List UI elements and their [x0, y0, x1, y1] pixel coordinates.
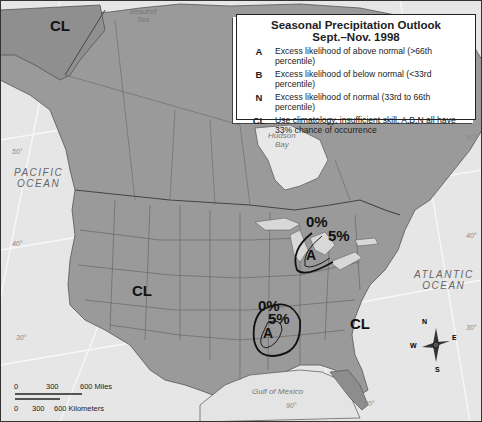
legend-desc: Use climatology, insufficient skill, A,B… — [275, 116, 469, 135]
legend-key: N — [243, 93, 275, 112]
great-lakes-outer-pct: 0% — [306, 213, 328, 230]
pacific-ocean-label: PACIFIC OCEAN — [14, 168, 63, 189]
compass-icon — [416, 320, 456, 370]
atlantic-line2: OCEAN — [414, 281, 474, 292]
legend-entry: B Excess likelihood of below normal (<33… — [243, 70, 469, 89]
zone-east-cl: CL — [350, 315, 370, 332]
compass-rose: N S W E — [416, 320, 456, 370]
scale-km-300: 300 — [32, 404, 45, 413]
lat-40-left: 40° — [12, 240, 23, 247]
pacific-line2: OCEAN — [14, 179, 63, 190]
great-lakes-a-label: A — [306, 247, 316, 263]
lat-30-left: 30° — [16, 334, 27, 341]
pacific-line1: PACIFIC — [14, 168, 63, 179]
compass-e: E — [452, 334, 457, 341]
scale-miles-300: 300 — [46, 382, 59, 391]
legend-desc: Excess likelihood of above normal (>66th… — [275, 47, 469, 66]
legend-entry: A Excess likelihood of above normal (>66… — [243, 47, 469, 66]
atlantic-ocean-label: ATLANTIC OCEAN — [414, 270, 474, 291]
lon-90: 90° — [286, 402, 297, 409]
atlantic-line1: ATLANTIC — [414, 270, 474, 281]
gulf-of-mexico-label: Gulf of Mexico — [252, 388, 303, 397]
legend-key: CL — [243, 116, 275, 135]
legend-desc: Excess likelihood of below normal (<33rd… — [275, 70, 469, 89]
lat-30-right: 30° — [466, 324, 477, 331]
legend-entry: N Excess likelihood of normal (33rd to 6… — [243, 93, 469, 112]
legend-box: Seasonal Precipitation Outlook Sept.–Nov… — [236, 14, 476, 120]
scale-bar: 0 300 600 Miles 0 300 600 Kilometers — [12, 382, 122, 416]
lat-50-right: 50° — [466, 134, 477, 141]
hudson-line2: Bay — [268, 141, 296, 150]
lat-40-right: 40° — [466, 232, 477, 239]
lon-80: 80° — [364, 400, 375, 407]
legend-key: A — [243, 47, 275, 66]
great-lakes-inner-pct: 5% — [328, 227, 350, 244]
scale-km-0: 0 — [14, 404, 18, 413]
beaufort-line2: Sea — [130, 16, 156, 24]
scale-miles-600: 600 Miles — [80, 382, 112, 391]
scale-miles-0: 0 — [14, 382, 18, 391]
zone-alaska-cl: CL — [50, 17, 70, 34]
lat-50-left: 50° — [12, 148, 23, 155]
beaufort-sea-label: Beaufort Sea — [130, 8, 156, 23]
legend-title: Seasonal Precipitation Outlook — [243, 19, 469, 31]
scale-km-600: 600 Kilometers — [54, 404, 104, 413]
beaufort-line1: Beaufort — [130, 8, 156, 16]
compass-s: S — [435, 366, 440, 373]
south-central-a-label: A — [263, 325, 273, 341]
legend-key: B — [243, 70, 275, 89]
compass-w: W — [410, 342, 417, 349]
legend-subtitle: Sept.–Nov. 1998 — [243, 31, 469, 43]
compass-n: N — [422, 318, 427, 325]
zone-west-cl: CL — [132, 282, 152, 299]
legend-entry: CL Use climatology, insufficient skill, … — [243, 116, 469, 135]
legend-desc: Excess likelihood of normal (33rd to 66t… — [275, 93, 469, 112]
